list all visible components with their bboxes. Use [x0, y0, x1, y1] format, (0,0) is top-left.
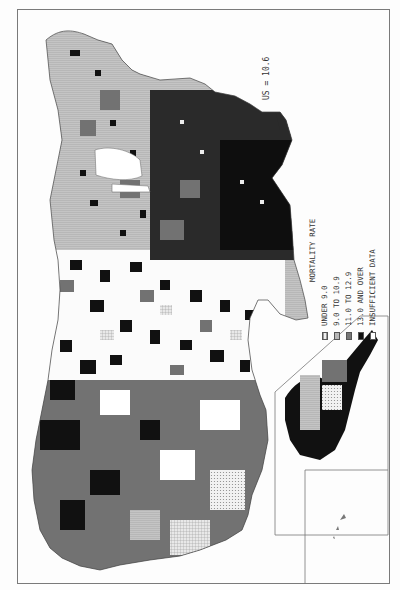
legend: MORTALITY RATE UNDER 9.0 9.0 TO 10.9 11.… [308, 232, 388, 342]
swatch-white-icon [370, 332, 376, 340]
swatch-black-icon [358, 332, 364, 340]
conterminous-us [30, 25, 315, 570]
legend-item-under-9: UNDER 9.0 [320, 285, 329, 340]
swatch-medium-icon [346, 332, 352, 340]
swatch-light-icon [334, 332, 340, 340]
legend-item-9-to-10-9: 9.0 TO 10.9 [332, 276, 341, 340]
legend-title: MORTALITY RATE [308, 219, 317, 282]
swatch-grid-icon [322, 332, 328, 340]
us-average-label: US = 10.6 [262, 57, 271, 100]
legend-item-11-to-12-9: 11.0 TO 12.9 [344, 272, 353, 340]
hawaii-inset [305, 470, 388, 584]
legend-item-13-and-over: 13.0 AND OVER [356, 267, 365, 340]
legend-item-insufficient-data: INSUFFICIENT DATA [368, 249, 377, 340]
alaska-inset [275, 316, 388, 535]
